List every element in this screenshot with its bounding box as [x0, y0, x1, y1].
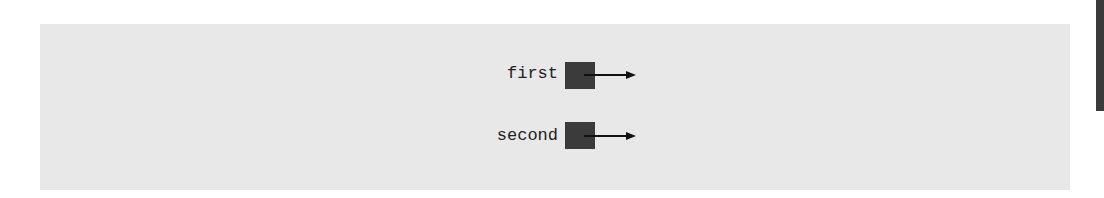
arrowhead-icon: [626, 71, 636, 79]
variable-label: second: [497, 124, 558, 148]
diagram-panel: [40, 24, 1070, 190]
arrowhead-icon: [626, 132, 636, 140]
arrow-right-icon: [584, 135, 626, 137]
page-edge-bar: [1096, 0, 1104, 111]
variable-label: first: [507, 62, 558, 86]
arrow-right-icon: [584, 74, 626, 76]
